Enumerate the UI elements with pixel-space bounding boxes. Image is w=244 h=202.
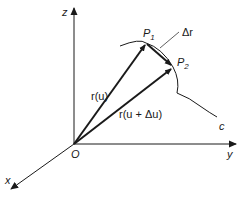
origin-label: O (71, 148, 80, 160)
z-axis-label: z (61, 6, 68, 18)
point-p1-label: P1 (143, 27, 155, 42)
y-axis-label: y (226, 148, 234, 160)
vector-delta-r (147, 44, 171, 65)
delta-r-leader (160, 32, 179, 48)
point-p2-label: P2 (177, 56, 189, 71)
x-axis-label: x (4, 174, 11, 186)
r-u-label: r(u) (91, 90, 108, 102)
curve-c (120, 41, 217, 117)
curve-c-label: c (219, 120, 225, 132)
vector-r-u-plus-du (74, 69, 171, 144)
vector-diagram: z y x O P1 P2 Δr r(u) r(u + Δu) c (0, 0, 244, 202)
r-u-plus-du-label: r(u + Δu) (119, 108, 162, 120)
x-axis (11, 144, 74, 189)
delta-r-label: Δr (182, 26, 193, 38)
vector-r-u (74, 45, 145, 144)
